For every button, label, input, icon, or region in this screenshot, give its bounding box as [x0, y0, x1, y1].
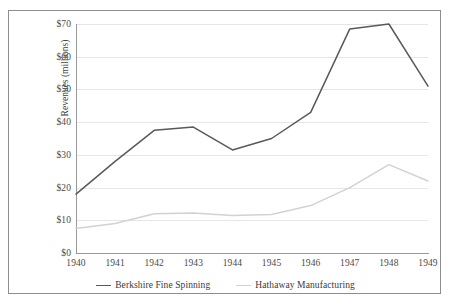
chart-legend: Berkshire Fine SpinningHathaway Manufact… [9, 277, 442, 293]
x-axis-tick-label: 1940 [66, 258, 85, 268]
y-axis-tick-labels: $70$60$50$40$30$20$10$0 [9, 11, 71, 267]
x-axis-tick-label: 1943 [184, 258, 203, 268]
legend-item[interactable]: Berkshire Fine Spinning [96, 280, 210, 290]
x-axis-tick-label: 1945 [262, 258, 281, 268]
y-axis-tick-label: $0 [61, 248, 71, 258]
legend-swatch [236, 285, 251, 286]
x-axis-tick-label: 1948 [379, 258, 398, 268]
x-axis-tick-label: 1947 [340, 258, 359, 268]
y-axis-tick-label: $40 [56, 117, 71, 127]
series-line [76, 165, 428, 229]
series-line [76, 24, 428, 194]
x-axis-tick-label: 1949 [418, 258, 437, 268]
y-axis-tick-label: $30 [56, 150, 71, 160]
x-axis-tick-label: 1944 [223, 258, 242, 268]
x-axis-tick-labels: 1940194119421943194419451946194719481949 [76, 258, 428, 274]
y-axis-tick-label: $10 [56, 215, 71, 225]
series-lines [76, 24, 428, 254]
y-axis-tick-label: $20 [56, 183, 71, 193]
x-axis-tick-label: 1942 [145, 258, 164, 268]
legend-label: Berkshire Fine Spinning [115, 280, 210, 290]
y-axis-tick-label: $70 [56, 19, 71, 29]
legend-swatch [96, 285, 111, 286]
y-axis-tick-label: $60 [56, 52, 71, 62]
x-axis-tick-label: 1941 [105, 258, 124, 268]
x-axis-tick-label: 1946 [301, 258, 320, 268]
legend-item[interactable]: Hathaway Manufacturing [236, 280, 355, 290]
y-axis-tick-label: $50 [56, 84, 71, 94]
chart-figure: Revenues (millions) $70$60$50$40$30$20$1… [8, 10, 441, 294]
legend-label: Hathaway Manufacturing [255, 280, 355, 290]
